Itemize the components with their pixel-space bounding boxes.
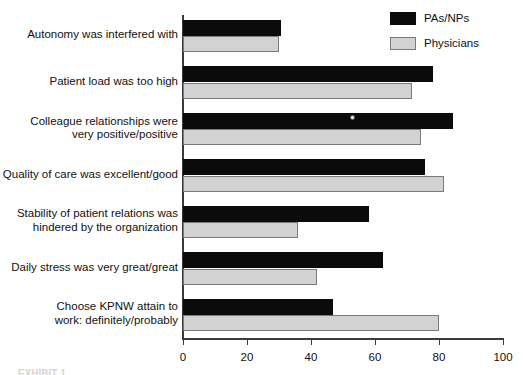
bar-pas-nps xyxy=(183,159,425,175)
bar-group xyxy=(183,294,503,340)
bar-group xyxy=(183,201,503,247)
category-label: Quality of care was excellent/good xyxy=(0,168,178,182)
bar-physicians xyxy=(183,176,444,192)
bar-pas-nps xyxy=(183,299,333,315)
category-label-line: Colleague relationships were xyxy=(0,115,178,129)
x-tick-label: 100 xyxy=(493,351,512,363)
bar-physicians xyxy=(183,36,279,52)
plot-area: 020406080100 xyxy=(183,15,503,340)
bar-group xyxy=(183,61,503,107)
clipped-caption: EXHIBIT 1 xyxy=(18,368,66,375)
category-axis-labels: Autonomy was interfered withPatient load… xyxy=(0,15,178,340)
category-label-line: Patient load was too high xyxy=(0,75,178,89)
bar-physicians xyxy=(183,129,421,145)
category-label: Stability of patient relations washinder… xyxy=(0,207,178,234)
bar-group xyxy=(183,247,503,293)
category-label-line: very positive/positive xyxy=(0,128,178,142)
x-tick-label: 20 xyxy=(241,351,254,363)
bar-group xyxy=(183,108,503,154)
category-label-line: Autonomy was interfered with xyxy=(0,28,178,42)
bar-pas-nps xyxy=(183,113,453,129)
category-label-line: Choose KPNW attain to xyxy=(0,300,178,314)
bar-group xyxy=(183,154,503,200)
x-tick-label: 60 xyxy=(369,351,382,363)
category-label-line: Daily stress was very great/great xyxy=(0,261,178,275)
category-label-line: Stability of patient relations was xyxy=(0,207,178,221)
bar-pas-nps xyxy=(183,66,433,82)
x-tick-label: 80 xyxy=(433,351,446,363)
bar-physicians xyxy=(183,222,298,238)
bar-pas-nps xyxy=(183,252,383,268)
x-tick-label: 0 xyxy=(180,351,186,363)
category-label: Autonomy was interfered with xyxy=(0,28,178,42)
category-label-line: hindered by the organization xyxy=(0,221,178,235)
bar-physicians xyxy=(183,83,412,99)
bar-physicians xyxy=(183,315,439,331)
x-tick xyxy=(375,340,376,345)
x-tick xyxy=(247,340,248,345)
category-label: Patient load was too high xyxy=(0,75,178,89)
category-label: Choose KPNW attain towork: definitely/pr… xyxy=(0,300,178,327)
bar-pas-nps xyxy=(183,206,369,222)
category-label: Colleague relationships werevery positiv… xyxy=(0,115,178,142)
x-tick xyxy=(503,340,504,345)
x-tick xyxy=(439,340,440,345)
x-tick-label: 40 xyxy=(305,351,318,363)
bar-physicians xyxy=(183,269,317,285)
x-tick xyxy=(311,340,312,345)
category-label-line: work: definitely/probably xyxy=(0,314,178,328)
x-tick xyxy=(183,340,184,345)
category-label-line: Quality of care was excellent/good xyxy=(0,168,178,182)
scan-speck-artifact xyxy=(350,115,355,120)
bar-group xyxy=(183,15,503,61)
category-label: Daily stress was very great/great xyxy=(0,261,178,275)
bar-pas-nps xyxy=(183,20,281,36)
